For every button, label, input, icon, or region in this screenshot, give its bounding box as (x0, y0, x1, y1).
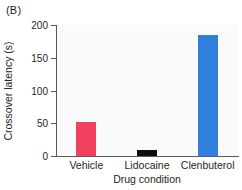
bars-layer (56, 25, 238, 156)
y-axis-tick-label: 100 (0, 85, 48, 96)
y-axis-tick-label: 50 (0, 118, 48, 129)
y-axis-tick-label: 150 (0, 52, 48, 63)
bar-chart-figure: (B) Crossover latency (s) 200150100500 V… (0, 0, 242, 190)
y-axis-tick-mark (51, 156, 57, 157)
y-axis-tick-label: 200 (0, 20, 48, 31)
bar (76, 122, 96, 156)
bar (198, 35, 218, 156)
x-axis-spine (56, 156, 239, 157)
x-axis-tick-label: Clenbuterol (181, 159, 235, 171)
x-axis-tick-label: Vehicle (69, 159, 103, 171)
x-axis-tick-label: Lidocaine (125, 159, 170, 171)
x-axis-label: Drug condition (56, 173, 238, 185)
y-axis-tick-label: 0 (0, 151, 48, 162)
y-axis-tick-labels: 200150100500 (0, 0, 48, 190)
bar (137, 150, 157, 156)
